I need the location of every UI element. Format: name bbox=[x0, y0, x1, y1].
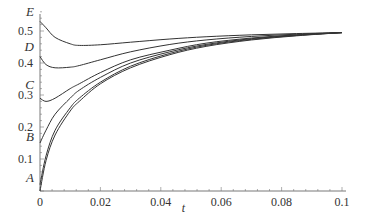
x-tick-label: 0.1 bbox=[335, 195, 350, 209]
curve-label-d: D bbox=[24, 39, 35, 54]
curves bbox=[40, 21, 342, 191]
line-chart: 00.020.040.060.080.1t0.10.20.30.40.5 EDC… bbox=[0, 0, 365, 214]
x-tick-label: 0 bbox=[37, 195, 43, 209]
curve-a2 bbox=[40, 33, 342, 191]
x-tick-label: 0.02 bbox=[90, 195, 111, 209]
curve-label-a: A bbox=[25, 170, 34, 185]
curve-label-c: C bbox=[25, 77, 34, 92]
x-tick-label: 0.04 bbox=[150, 195, 171, 209]
curve-a bbox=[40, 33, 342, 185]
curve-label-b: B bbox=[26, 129, 34, 144]
curve-label-e: E bbox=[25, 4, 34, 19]
y-tick-label: 0.1 bbox=[18, 152, 33, 166]
curve-c bbox=[40, 33, 342, 102]
x-axis-title: t bbox=[182, 201, 186, 214]
y-tick-label: 0.5 bbox=[18, 24, 33, 38]
x-tick-label: 0.08 bbox=[271, 195, 292, 209]
x-tick-label: 0.06 bbox=[211, 195, 232, 209]
y-tick-label: 0.4 bbox=[18, 56, 33, 70]
